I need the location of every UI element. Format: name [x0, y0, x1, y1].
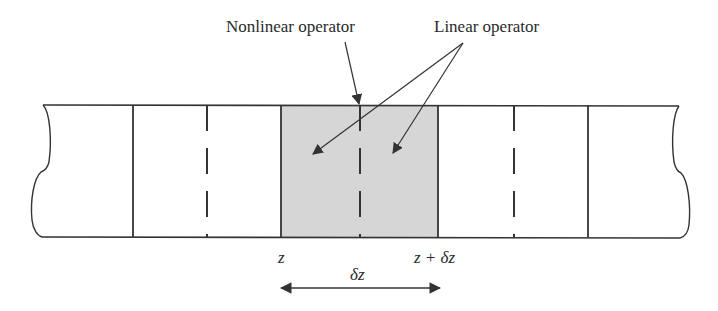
step-size-label: δz	[350, 265, 365, 284]
split-step-diagram: Nonlinear operator Linear operator z z +…	[0, 0, 718, 311]
z-end-label: z + δz	[413, 248, 455, 267]
nonlinear-operator-label: Nonlinear operator	[226, 17, 355, 36]
nonlinear-operator-arrow	[345, 42, 359, 104]
z-start-label: z	[277, 248, 285, 267]
fiber-right-broken-end	[673, 106, 690, 238]
fiber-left-broken-end	[31, 105, 50, 237]
linear-operator-label: Linear operator	[434, 17, 540, 36]
fiber-bottom-edge	[42, 237, 680, 238]
